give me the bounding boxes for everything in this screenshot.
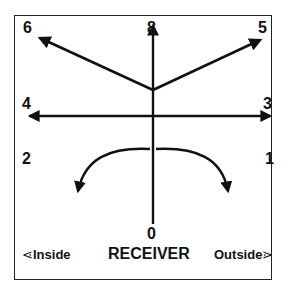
outside-label: Outside⋗ [214,248,273,262]
direction-5-label: 5 [258,20,267,36]
direction-8-label: 8 [147,20,156,36]
inside-text: Inside [33,247,71,262]
direction-3-label: 3 [263,96,272,112]
route-6-arrow [40,38,153,90]
receiver-label: RECEIVER [108,246,190,262]
route-5-arrow [153,40,260,90]
direction-6-label: 6 [23,20,32,36]
inside-label: ⋖Inside [22,248,71,262]
route-1-curl-arrow [156,149,228,191]
direction-2-label: 2 [22,151,31,167]
right-arrow-icon: ⋗ [262,247,273,262]
route-diagram [0,0,292,286]
direction-1-label: 1 [265,151,274,167]
direction-0-label: 0 [147,226,156,242]
direction-4-label: 4 [22,96,31,112]
outside-text: Outside [214,247,262,262]
route-2-curl-arrow [78,149,150,191]
left-arrow-icon: ⋖ [22,247,33,262]
